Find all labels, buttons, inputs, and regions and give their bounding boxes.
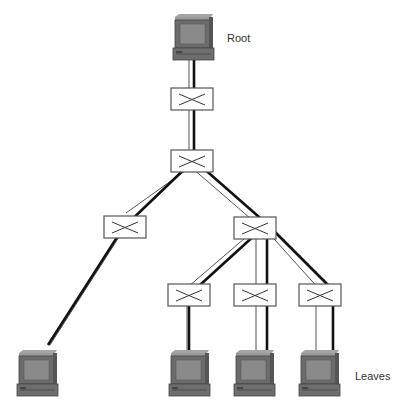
switch-bottom-1 <box>168 284 210 306</box>
leaf-computer-icon-2 <box>169 350 210 396</box>
switch-bottom-2 <box>234 284 276 306</box>
leaves-label: Leaves <box>355 370 390 382</box>
leaf-computer-icon-1 <box>17 350 58 396</box>
spanning-tree-diagram <box>0 0 403 414</box>
switch-right <box>234 217 276 239</box>
root-computer-icon <box>173 14 214 60</box>
switch-1 <box>171 88 213 110</box>
leaf-computer-icon-4 <box>299 350 340 396</box>
root-label: Root <box>227 32 250 44</box>
switch-left <box>104 216 146 238</box>
leaf-computer-icon-3 <box>234 350 275 396</box>
switch-bottom-3 <box>299 284 341 306</box>
switch-2 <box>171 150 213 172</box>
